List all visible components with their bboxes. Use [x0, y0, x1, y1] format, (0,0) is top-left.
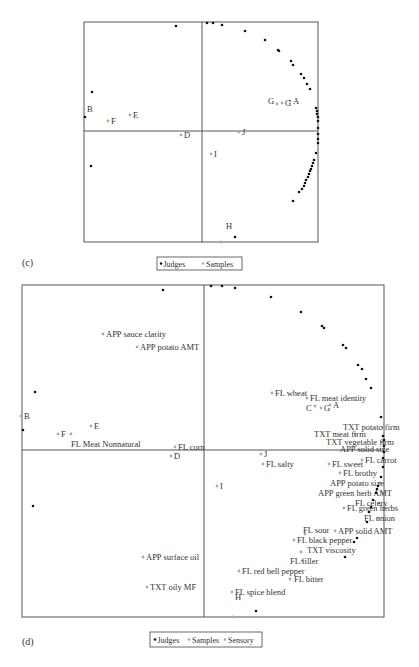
judge-point [303, 77, 306, 80]
legend-judges-label: Judges [158, 636, 180, 645]
judge-point [34, 391, 37, 394]
judge-point [304, 182, 307, 185]
judge-point [372, 499, 375, 502]
legend-samples-label: Samples [192, 636, 219, 645]
sample-label: G [268, 96, 274, 106]
sample-label: G [285, 98, 291, 108]
sensory-label: FL salty [266, 459, 295, 469]
sensory-point [174, 446, 177, 449]
sensory-label: FL carrot [365, 455, 397, 465]
sensory-label: APP potato AMT [140, 342, 200, 352]
sensory-point [334, 530, 337, 533]
sample-point [232, 616, 235, 619]
sample-label: J [242, 127, 246, 137]
sensory-point [289, 578, 292, 581]
sensory-point [300, 551, 303, 554]
judge-point [317, 116, 320, 119]
judge-point [303, 185, 306, 188]
judge-point [356, 537, 359, 540]
judge-point [234, 236, 237, 239]
sample-point [216, 485, 219, 488]
sensory-point [70, 433, 73, 436]
judge-point [366, 521, 369, 524]
judge-point [264, 39, 267, 42]
judge-point [380, 476, 383, 479]
sample-point [220, 241, 223, 244]
sample-label: F [111, 116, 116, 126]
judge-point [317, 127, 320, 130]
sample-label: H [235, 592, 241, 602]
sensory-point [146, 586, 149, 589]
sample-point [129, 114, 132, 117]
judge-point [300, 73, 303, 76]
judge-point [244, 30, 247, 33]
legend-judges-marker-icon [154, 638, 157, 641]
sample-point [320, 407, 323, 410]
sensory-label: FL black pepper [297, 535, 353, 545]
judge-point [370, 506, 373, 509]
judge-point [383, 451, 386, 454]
judge-point [365, 378, 368, 381]
panel-d-legend: Judges Samples Sensory [150, 632, 262, 647]
sample-point [314, 405, 317, 408]
judge-point [234, 287, 237, 290]
sensory-label: APP surface oil [146, 552, 200, 562]
sensory-label: APP solid size [340, 444, 390, 454]
sample-point [210, 153, 213, 156]
judge-point [317, 133, 320, 136]
sensory-label: FL Meat Nonnatural [71, 439, 141, 449]
sensory-label: FL sour [303, 525, 330, 535]
judge-point [255, 610, 258, 613]
judge-point [382, 457, 385, 460]
judge-point [292, 64, 295, 67]
sensory-label: FL brothy [343, 468, 378, 478]
judge-point [375, 492, 378, 495]
sample-label: C [306, 403, 312, 413]
judge-point [301, 188, 304, 191]
sample-label: E [94, 421, 99, 431]
judge-point [323, 327, 326, 330]
judge-point [357, 364, 360, 367]
judge-point [90, 165, 93, 168]
panel-d-label: (d) [22, 636, 34, 648]
legend-judges-label: Judges [164, 260, 186, 269]
sample-point [170, 455, 173, 458]
sensory-point [262, 463, 265, 466]
legend-samples-marker-icon [188, 638, 191, 641]
sensory-point [328, 463, 331, 466]
sensory-label: FL wheat [275, 388, 308, 398]
judge-point [175, 25, 178, 28]
panel-c-label: (c) [22, 257, 33, 269]
sensory-label: FL spice blend [235, 587, 286, 597]
judge-point [305, 179, 308, 182]
judge-point [270, 296, 273, 299]
sensory-point [102, 333, 105, 336]
panel-d-sensory-points: APP sauce clarityAPP potato AMTFL Meat N… [70, 329, 400, 597]
judge-point [22, 429, 25, 432]
sensory-point [271, 392, 274, 395]
biplot-figure: AGGBEFDJIH (c) Judges Samples APP sauce … [0, 0, 419, 667]
judge-point [368, 511, 371, 514]
sensory-point [231, 591, 234, 594]
judge-point [300, 311, 303, 314]
judge-point [307, 176, 310, 179]
panel-c-frame [84, 22, 318, 242]
judge-point [345, 347, 348, 350]
judge-point [210, 285, 213, 288]
judge-point [380, 416, 383, 419]
sample-point [276, 103, 279, 106]
sensory-label: TXT viscosity [307, 545, 356, 555]
sensory-point [293, 539, 296, 542]
judge-point [311, 165, 314, 168]
sample-label: D [174, 451, 180, 461]
judge-point [382, 435, 385, 438]
judge-point [317, 138, 320, 141]
sample-label: A [293, 96, 300, 106]
sample-label: A [333, 400, 340, 410]
judge-point [377, 485, 380, 488]
judge-point [290, 60, 293, 63]
judge-point [308, 173, 311, 176]
judge-point [361, 368, 364, 371]
sensory-point [343, 507, 346, 510]
judge-point [317, 142, 320, 145]
